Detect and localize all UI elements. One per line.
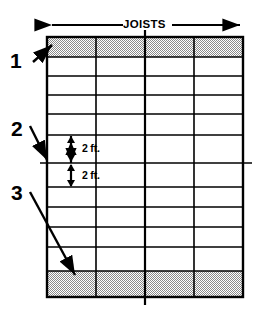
callout-2-leader bbox=[30, 126, 47, 160]
dim-lower-head-top bbox=[67, 164, 75, 171]
joist-framing-diagram: JOISTS 1 2 3 2 ft. 2 ft. bbox=[0, 0, 276, 311]
dimension-label-lower: 2 ft. bbox=[82, 170, 100, 181]
diagram-canvas bbox=[0, 0, 276, 311]
callout-2-label: 2 bbox=[11, 118, 23, 139]
joists-label: JOISTS bbox=[123, 19, 166, 31]
callout-3-label: 3 bbox=[11, 182, 23, 203]
callout-3-leader bbox=[30, 192, 75, 275]
dim-upper-head-bottom bbox=[67, 155, 75, 162]
dimension-label-upper: 2 ft. bbox=[82, 143, 100, 154]
dim-upper-head-top bbox=[67, 136, 75, 143]
dim-lower-head-bottom bbox=[67, 180, 75, 187]
callout-1-label: 1 bbox=[10, 50, 22, 71]
